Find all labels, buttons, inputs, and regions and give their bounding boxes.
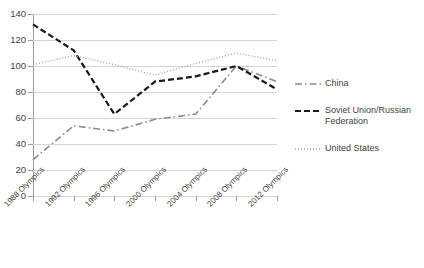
y-axis-tick-label: 120 bbox=[0, 35, 26, 45]
series-line-united-states bbox=[33, 53, 277, 75]
legend-item[interactable]: China bbox=[295, 78, 420, 89]
series-line-soviet-union-russian-federation bbox=[33, 24, 277, 114]
y-axis-tick-label: 60 bbox=[0, 113, 26, 123]
chart-legend: ChinaSoviet Union/Russian FederationUnit… bbox=[295, 78, 420, 170]
legend-label: United States bbox=[325, 143, 379, 154]
x-axis-tick bbox=[155, 196, 156, 201]
legend-item[interactable]: United States bbox=[295, 143, 420, 154]
series-line-china bbox=[33, 66, 277, 160]
y-axis-tick-label: 80 bbox=[0, 87, 26, 97]
x-axis-tick bbox=[33, 196, 34, 201]
x-axis-tick bbox=[114, 196, 115, 201]
legend-label: Soviet Union/Russian Federation bbox=[325, 105, 420, 127]
legend-label: China bbox=[325, 78, 349, 89]
y-axis-tick-label: 20 bbox=[0, 165, 26, 175]
legend-swatch-icon bbox=[295, 79, 321, 89]
legend-item[interactable]: Soviet Union/Russian Federation bbox=[295, 105, 420, 127]
y-axis-tick-label: 100 bbox=[0, 61, 26, 71]
line-chart: 020406080100120140 1988 Olympics1992 Oly… bbox=[0, 0, 424, 268]
legend-swatch-icon bbox=[295, 144, 321, 154]
y-axis-tick-label: 40 bbox=[0, 139, 26, 149]
x-axis-tick bbox=[74, 196, 75, 201]
x-axis-tick bbox=[196, 196, 197, 201]
x-axis-tick bbox=[236, 196, 237, 201]
y-axis-tick-label: 140 bbox=[0, 9, 26, 19]
x-axis-tick bbox=[277, 196, 278, 201]
legend-swatch-icon bbox=[295, 106, 321, 116]
